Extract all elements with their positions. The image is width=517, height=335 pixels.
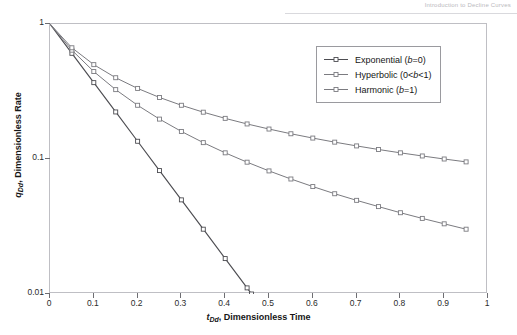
y-tick-label: 0.01 (0, 288, 44, 296)
x-tick-mark (312, 293, 313, 298)
legend-line-sample (323, 69, 349, 80)
x-tick-mark (356, 293, 357, 298)
legend-line-sample (323, 54, 349, 65)
x-tick-mark (137, 293, 138, 298)
y-tick-mark (45, 23, 50, 24)
legend-item-label: Hyperbolic (0<b<1) (355, 70, 432, 80)
legend-item-label: Harmonic (b=1) (355, 85, 417, 95)
legend-item[interactable]: Exponential (b=0) (323, 52, 432, 67)
y-tick-mark (45, 158, 50, 159)
x-tick-label: 0.6 (292, 299, 332, 308)
x-tick-label: 0.3 (160, 299, 200, 308)
x-tick-label: 0.8 (379, 299, 419, 308)
x-tick-label: 0.2 (117, 299, 157, 308)
y-axis-rest: , Dimensionless Rate (13, 92, 23, 183)
x-tick-mark (180, 293, 181, 298)
x-tick-mark (49, 293, 50, 298)
y-axis-title: qDd, Dimensionless Rate (13, 45, 23, 245)
legend-item-label: Exponential (b=0) (355, 55, 426, 65)
x-tick-mark (487, 293, 488, 298)
x-tick-label: 1 (467, 299, 507, 308)
y-axis-symbol: q (13, 192, 23, 198)
y-axis-subscript: Dd (17, 183, 24, 192)
x-tick-mark (93, 293, 94, 298)
legend-item[interactable]: Hyperbolic (0<b<1) (323, 67, 432, 82)
legend-line-sample (323, 84, 349, 95)
series-exponential (50, 24, 253, 294)
x-tick-label: 0 (29, 299, 69, 308)
x-axis-rest: , Dimensionless Time (219, 312, 311, 322)
x-tick-label: 0.5 (248, 299, 288, 308)
x-tick-mark (224, 293, 225, 298)
x-tick-label: 0.7 (336, 299, 376, 308)
legend-item[interactable]: Harmonic (b=1) (323, 82, 432, 97)
x-axis-subscript: Dd (209, 316, 218, 323)
x-tick-mark (443, 293, 444, 298)
x-tick-mark (399, 293, 400, 298)
x-axis-title: tDd, Dimensionless Time (0, 312, 517, 322)
x-tick-label: 0.1 (73, 299, 113, 308)
y-tick-label: 1 (0, 18, 44, 26)
decline-curve-chart: 10.10.01 00.10.20.30.40.50.60.70.80.91 t… (0, 0, 517, 335)
x-tick-label: 0.4 (204, 299, 244, 308)
x-tick-mark (268, 293, 269, 298)
x-tick-label: 0.9 (423, 299, 463, 308)
chart-legend: Exponential (b=0)Hyperbolic (0<b<1)Harmo… (316, 46, 441, 103)
